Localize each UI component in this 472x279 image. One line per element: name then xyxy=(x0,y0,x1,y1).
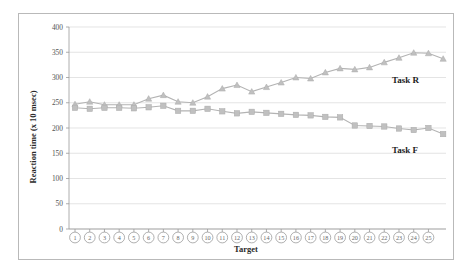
x-tick-label: 5 xyxy=(132,234,135,241)
y-tick-label: 400 xyxy=(52,23,63,32)
x-tick-label: 10 xyxy=(204,234,210,241)
x-tick-label: 15 xyxy=(278,234,284,241)
series-label-task-r: Task R xyxy=(392,75,419,85)
x-tick-labels: 1234567891011121314151617181920212223242… xyxy=(70,232,434,243)
x-tick-label: 8 xyxy=(177,234,180,241)
x-axis-title: Target xyxy=(234,244,258,254)
y-tick-label: 150 xyxy=(52,149,63,158)
y-tick-labels: 050100150200250300350400 xyxy=(52,23,63,234)
x-tick-label: 7 xyxy=(162,234,165,241)
x-tick-label: 1 xyxy=(73,234,76,241)
data-point-marker xyxy=(234,111,239,116)
x-tick-label: 12 xyxy=(234,234,240,241)
gridlines xyxy=(69,27,446,229)
axes xyxy=(66,27,446,232)
data-point-marker xyxy=(146,105,151,110)
data-point-marker xyxy=(249,109,254,114)
data-point-marker xyxy=(293,112,298,117)
series-annotations: Task RTask F xyxy=(392,75,419,155)
data-point-marker xyxy=(323,114,328,119)
y-tick-label: 300 xyxy=(52,73,63,82)
data-point-marker xyxy=(382,124,387,129)
reaction-time-line-chart: 050100150200250300350400 123456789101112… xyxy=(0,0,472,279)
y-axis-title: Reaction time (x 10 msec) xyxy=(28,90,38,183)
x-tick-label: 6 xyxy=(147,234,150,241)
x-tick-label: 2 xyxy=(88,234,91,241)
data-point-marker xyxy=(116,105,121,110)
y-tick-label: 50 xyxy=(56,199,64,208)
x-tick-label: 4 xyxy=(118,234,121,241)
x-tick-label: 16 xyxy=(293,234,299,241)
data-point-marker xyxy=(205,106,210,111)
data-point-marker xyxy=(234,82,240,88)
y-tick-label: 250 xyxy=(52,98,63,107)
x-tick-label: 21 xyxy=(366,234,372,241)
data-point-marker xyxy=(278,111,283,116)
data-point-marker xyxy=(367,123,372,128)
series-line-task-f xyxy=(75,106,443,134)
y-tick-label: 0 xyxy=(59,225,63,234)
data-point-marker xyxy=(426,125,431,130)
x-tick-label: 25 xyxy=(425,234,431,241)
data-point-marker xyxy=(308,113,313,118)
data-point-marker xyxy=(204,94,210,100)
data-point-marker xyxy=(337,115,342,120)
data-point-marker xyxy=(396,126,401,131)
data-point-marker xyxy=(220,109,225,114)
data-point-marker xyxy=(264,110,269,115)
x-tick-label: 9 xyxy=(191,234,194,241)
x-tick-label: 24 xyxy=(411,234,417,241)
data-point-marker xyxy=(161,103,166,108)
series-label-task-f: Task F xyxy=(392,145,418,155)
x-tick-label: 20 xyxy=(352,234,358,241)
data-point-marker xyxy=(175,108,180,113)
data-point-marker xyxy=(190,108,195,113)
series-line-task-r xyxy=(75,53,443,105)
x-tick-label: 17 xyxy=(308,234,314,241)
data-point-marker xyxy=(102,105,107,110)
y-tick-label: 200 xyxy=(52,124,63,133)
data-point-marker xyxy=(72,105,77,110)
data-point-marker xyxy=(87,106,92,111)
x-tick-label: 13 xyxy=(249,234,255,241)
x-tick-label: 14 xyxy=(263,234,269,241)
data-point-marker xyxy=(160,92,166,98)
y-tick-label: 100 xyxy=(52,174,63,183)
data-series xyxy=(72,50,446,137)
data-point-marker xyxy=(411,127,416,132)
data-point-marker xyxy=(87,99,93,105)
data-point-marker xyxy=(352,123,357,128)
x-tick-label: 23 xyxy=(396,234,402,241)
x-tick-label: 19 xyxy=(337,234,343,241)
data-point-marker xyxy=(440,131,445,136)
x-tick-label: 3 xyxy=(103,234,106,241)
data-point-marker xyxy=(131,106,136,111)
x-tick-label: 11 xyxy=(219,234,225,241)
chart-figure: 050100150200250300350400 123456789101112… xyxy=(0,0,472,279)
y-tick-label: 350 xyxy=(52,48,63,57)
x-tick-label: 18 xyxy=(322,234,328,241)
x-tick-label: 22 xyxy=(381,234,387,241)
